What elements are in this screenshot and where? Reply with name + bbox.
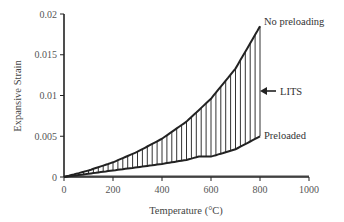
y-axis-title: Expansive Strain — [12, 60, 23, 132]
x-tick-label: 0 — [62, 184, 67, 195]
x-tick-label: 1000 — [299, 184, 319, 195]
x-tick-label: 600 — [204, 184, 219, 195]
lits-label: LITS — [280, 86, 302, 97]
y-tick-label: 0.02 — [40, 9, 58, 20]
y-tick-label: 0.015 — [35, 49, 58, 60]
y-ticks: 00.0050.010.0150.02 — [35, 9, 65, 183]
lits-hatching — [64, 26, 309, 176]
lits-arrow-icon — [260, 87, 276, 95]
x-ticks: 02004006008001000 — [62, 177, 320, 195]
no-preloading-label: No preloading — [264, 16, 325, 27]
y-tick-label: 0.005 — [35, 131, 58, 142]
x-axis-title: Temperature (°C) — [149, 205, 223, 217]
x-tick-label: 400 — [155, 184, 170, 195]
x-tick-label: 200 — [106, 184, 121, 195]
preloaded-label: Preloaded — [264, 130, 307, 141]
chart-container: 02004006008001000 00.0050.010.0150.02 Te… — [0, 0, 344, 222]
y-tick-label: 0.01 — [40, 90, 58, 101]
y-tick-label: 0 — [52, 172, 57, 183]
x-tick-label: 800 — [253, 184, 268, 195]
plot-area: 02004006008001000 00.0050.010.0150.02 Te… — [0, 0, 344, 222]
